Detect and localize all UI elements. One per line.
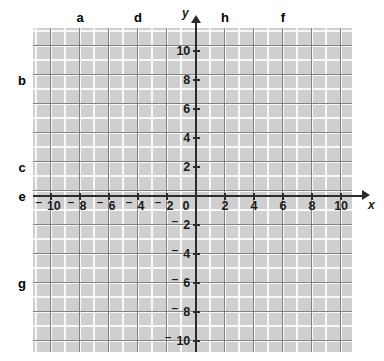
y-tick-label: 2 [178, 218, 190, 232]
x-tick-label: 4 [132, 199, 144, 213]
y-tick-mark [193, 50, 200, 52]
callout-label-h: h [221, 10, 229, 25]
y-tick-mark [193, 253, 200, 255]
y-tick-label: 6 [183, 102, 190, 116]
x-tick-label: 2 [222, 199, 229, 213]
major-gridlines [33, 28, 352, 352]
y-tick-label: 6 [178, 276, 190, 290]
x-axis-line [33, 195, 365, 197]
callout-label-d: d [134, 10, 142, 25]
x-tick-label: 10 [41, 199, 60, 213]
callout-label-c: c [18, 160, 25, 175]
x-tick-label: 6 [103, 199, 115, 213]
x-tick-label: 8 [309, 199, 316, 213]
y-tick-label: 2 [183, 160, 190, 174]
y-tick-label: 4 [178, 247, 190, 261]
y-tick-mark [193, 224, 200, 226]
y-tick-label: 8 [183, 73, 190, 87]
y-tick-mark [193, 282, 200, 284]
y-tick-label: 4 [183, 131, 190, 145]
y-axis-arrow-icon [191, 15, 201, 23]
callout-label-b: b [18, 73, 26, 88]
callout-label-a: a [76, 10, 83, 25]
callout-label-g: g [18, 276, 26, 291]
y-tick-label: 8 [178, 305, 190, 319]
x-tick-label: 8 [74, 199, 86, 213]
x-tick-label: 4 [251, 199, 258, 213]
y-tick-label: 10 [171, 334, 190, 348]
coordinate-plane-figure: x y 108642246810 108642246810 0 adhf bce… [0, 0, 384, 361]
y-tick-mark [193, 166, 200, 168]
y-axis-line [195, 22, 197, 352]
callout-label-f: f [281, 10, 285, 25]
y-tick-mark [193, 340, 200, 342]
origin-label: 0 [183, 199, 190, 213]
x-tick-label: 2 [161, 199, 173, 213]
y-tick-mark [193, 79, 200, 81]
callout-label-e: e [18, 189, 25, 204]
y-tick-mark [193, 108, 200, 110]
y-tick-label: 10 [176, 44, 190, 58]
grid-plate [33, 28, 352, 352]
y-axis-label: y [182, 6, 189, 20]
x-axis-label: x [368, 198, 375, 212]
y-tick-mark [193, 311, 200, 313]
x-tick-label: 10 [334, 199, 348, 213]
x-tick-label: 6 [280, 199, 287, 213]
y-tick-mark [193, 137, 200, 139]
